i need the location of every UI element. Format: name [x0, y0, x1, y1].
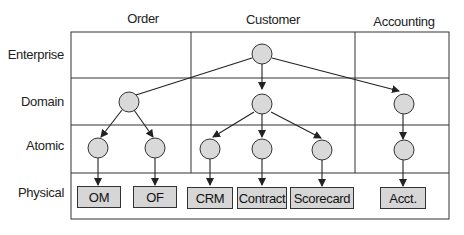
system-box-scorecard: Scorecard — [290, 187, 354, 209]
node-of-atomic — [145, 138, 165, 158]
node-customer-domain — [252, 94, 272, 114]
row-label-domain: Domain — [0, 94, 64, 109]
row-label-physical: Physical — [0, 185, 64, 200]
nodes — [88, 44, 414, 160]
row-label-enterprise: Enterprise — [0, 47, 64, 62]
system-box-acct: Acct. — [380, 187, 426, 209]
column-label-customer: Customer — [213, 12, 333, 27]
node-acct-atomic — [394, 140, 414, 160]
system-box-crm: CRM — [187, 187, 233, 209]
system-box-om: OM — [77, 186, 121, 208]
edges — [98, 58, 403, 186]
node-customer-enterprise — [252, 44, 272, 64]
column-label-accounting: Accounting — [344, 14, 464, 29]
system-box-contract: Contract — [237, 187, 287, 209]
node-contract-atomic — [252, 139, 272, 159]
row-label-atomic: Atomic — [0, 138, 64, 153]
node-accounting-domain — [394, 94, 414, 114]
column-label-order: Order — [83, 11, 203, 26]
node-scorecard-atomic — [312, 140, 332, 160]
node-crm-atomic — [200, 139, 220, 159]
node-om-atomic — [88, 138, 108, 158]
system-box-of: OF — [133, 186, 177, 208]
node-order-domain — [119, 92, 139, 112]
